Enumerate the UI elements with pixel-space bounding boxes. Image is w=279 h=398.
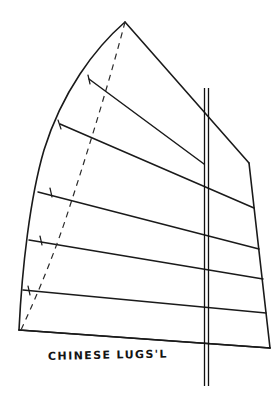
- tick-mark-group: [28, 75, 90, 295]
- chinese-lugsail-diagram: [0, 0, 279, 398]
- sail-sketch-page: CHINESE LUGS'L: [0, 0, 279, 398]
- batten-3: [38, 192, 259, 249]
- batten-guide-tick-4: [40, 236, 42, 245]
- batten-group: [19, 79, 270, 348]
- head-upper-leech: [125, 22, 249, 163]
- figure-caption: CHINESE LUGS'L: [48, 347, 168, 363]
- leech-trailing-edge: [249, 163, 270, 348]
- sail-outline-group: [19, 22, 270, 348]
- mast-spar: [205, 88, 209, 386]
- batten-5: [23, 290, 266, 313]
- batten-4: [29, 240, 263, 279]
- luff-leading-edge: [19, 22, 125, 330]
- batten-6: [19, 330, 270, 348]
